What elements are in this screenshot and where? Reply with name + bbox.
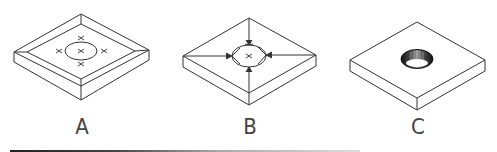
figure-b-slab [183,18,316,105]
figure-label-b: B [237,114,264,139]
figure-label-a: A [69,114,96,139]
figure-label-c: C [405,114,432,139]
figure-a-tray [14,14,149,100]
figure-c-slab-with-hole [350,22,485,110]
bottom-divider [10,150,360,152]
